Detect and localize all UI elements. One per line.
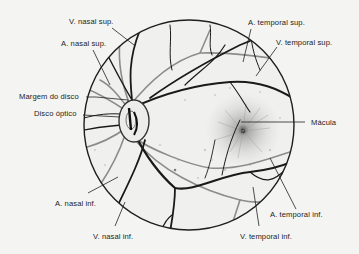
optic-disc <box>119 100 149 142</box>
label-a-nasal-sup: A. nasal sup. <box>61 39 106 48</box>
label-a-nasal-inf: A. nasal inf. <box>55 199 96 208</box>
label-v-temporal-sup: V. temporal sup. <box>276 38 332 47</box>
label-v-nasal-sup: V. nasal sup. <box>69 17 114 26</box>
retina-diagram: V. nasal sup. A. nasal sup. Margem do di… <box>0 0 359 254</box>
label-margem-do-disco: Margem do disco <box>19 92 79 101</box>
label-disco-optico: Disco óptico <box>34 109 77 118</box>
label-v-temporal-inf: V. temporal inf. <box>240 232 292 241</box>
label-a-temporal-inf: A. temporal inf. <box>270 210 323 219</box>
leader-v-nasal-inf <box>115 202 125 226</box>
label-v-nasal-inf: V. nasal inf. <box>93 232 133 241</box>
label-macula: Mácula <box>311 118 336 127</box>
label-a-temporal-sup: A. temporal sup. <box>248 18 305 27</box>
